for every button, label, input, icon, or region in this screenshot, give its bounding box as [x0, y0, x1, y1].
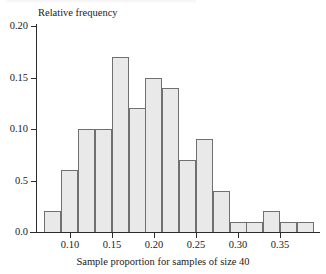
histogram-bar: [95, 129, 112, 232]
x-tick-mark: [112, 233, 113, 238]
y-tick-mark: [31, 26, 36, 27]
y-tick-label: 0.15: [0, 72, 28, 83]
y-tick-mark: [31, 232, 36, 233]
y-tick-mark: [31, 181, 36, 182]
x-tick-label: 0.25: [179, 239, 213, 250]
y-tick-label: 0.10: [0, 123, 28, 134]
y-tick-mark: [31, 129, 36, 130]
x-tick-mark: [154, 233, 155, 238]
histogram-bar: [213, 191, 230, 232]
y-tick-label: 0.5: [0, 175, 28, 186]
x-tick-mark: [70, 233, 71, 238]
x-tick-mark: [280, 233, 281, 238]
histogram-bar: [61, 170, 78, 232]
y-tick-mark: [31, 78, 36, 79]
histogram-bar: [280, 222, 297, 232]
histogram-bar: [44, 211, 61, 232]
y-axis-title: Relative frequency: [38, 7, 118, 19]
histogram-figure: Relative frequency 0.200.150.100.50.0 0.…: [0, 0, 326, 274]
histogram-bar: [246, 222, 263, 232]
histogram-bar: [297, 222, 314, 232]
y-tick-label: 0.0: [0, 226, 28, 237]
y-tick-label: 0.20: [0, 20, 28, 31]
histogram-bar: [230, 222, 247, 232]
histogram-bar: [196, 139, 213, 232]
histogram-bar: [129, 108, 146, 232]
histogram-bar: [162, 88, 179, 232]
histogram-bar: [263, 211, 280, 232]
x-axis-title: Sample proportion for samples of size 40: [0, 256, 326, 268]
x-tick-label: 0.20: [137, 239, 171, 250]
cropped-header-remnant: [6, 0, 196, 4]
histogram-bar: [179, 160, 196, 232]
x-tick-label: 0.15: [95, 239, 129, 250]
histogram-bar: [78, 129, 95, 232]
x-tick-label: 0.30: [221, 239, 255, 250]
histogram-bar: [145, 78, 162, 232]
histogram-bar: [112, 57, 129, 232]
x-axis-line: [30, 232, 320, 233]
x-tick-label: 0.10: [53, 239, 87, 250]
x-tick-label: 0.35: [263, 239, 297, 250]
x-tick-mark: [238, 233, 239, 238]
x-tick-mark: [196, 233, 197, 238]
